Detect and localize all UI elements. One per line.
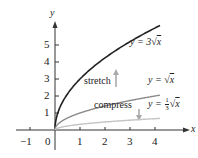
y-tick-label: 3 bbox=[44, 73, 50, 84]
fraction-num: 1 bbox=[165, 97, 169, 104]
x-axis-label: x bbox=[191, 124, 195, 134]
x-tick-label: 2 bbox=[102, 136, 108, 147]
x-tick-label: 0 bbox=[45, 136, 51, 147]
x-tick-label: 4 bbox=[152, 136, 158, 147]
fraction: 13 bbox=[165, 97, 169, 112]
x-tick-label: 3 bbox=[127, 136, 133, 147]
y-tick-label: 5 bbox=[44, 39, 50, 50]
eq-stretch-prefix: y = 3 bbox=[130, 36, 151, 47]
eq-compress-prefix: y = bbox=[148, 98, 164, 109]
equation-stretch: y = 3√x bbox=[130, 37, 161, 47]
eq-base-prefix: y = bbox=[148, 74, 164, 85]
eq-var: x bbox=[157, 36, 161, 47]
y-tick-label: 2 bbox=[44, 90, 50, 101]
equation-compress: y = 13√x bbox=[148, 97, 180, 112]
eq-var: x bbox=[175, 98, 179, 109]
eq-var: x bbox=[170, 74, 174, 85]
fraction-den: 3 bbox=[165, 104, 169, 112]
x-tick-label: −1 bbox=[20, 136, 32, 147]
stretch-label: stretch bbox=[84, 76, 111, 86]
y-tick-label: 4 bbox=[44, 56, 50, 67]
equation-base: y = √x bbox=[148, 75, 174, 85]
x-tick-label: 1 bbox=[77, 136, 83, 147]
y-axis-label: y bbox=[50, 8, 54, 18]
y-tick-label: 1 bbox=[44, 107, 50, 118]
compress-label: compress bbox=[94, 100, 132, 110]
graph: y x 1 2 3 4 5 −1 0 1 2 3 4 y = 3√x y = √… bbox=[0, 0, 198, 158]
